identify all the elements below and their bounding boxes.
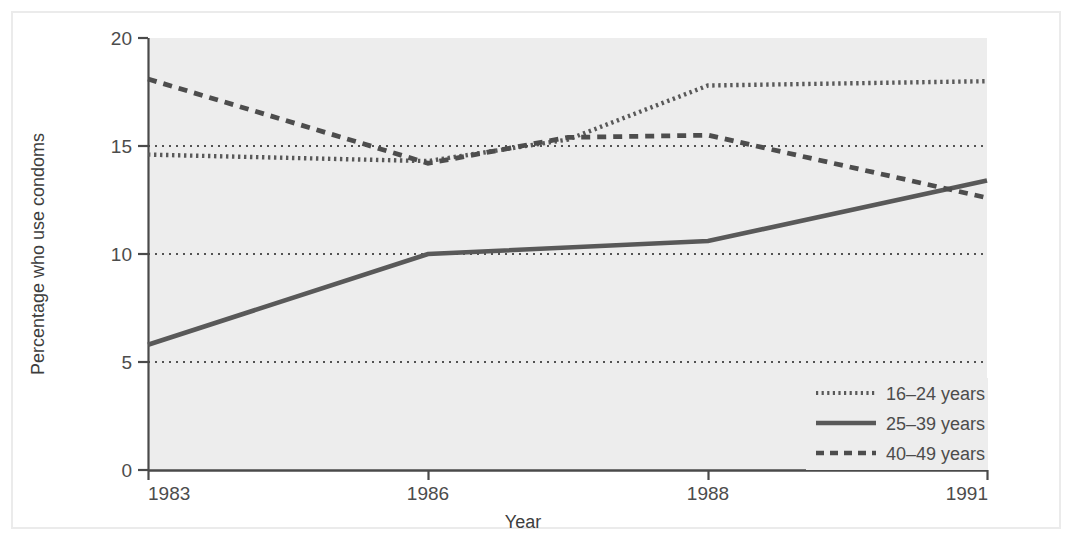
x-axis [148,470,988,480]
x-tick-label-1991: 1991 [946,483,988,504]
x-axis-title: Year [505,512,541,532]
x-tick-label-1983: 1983 [148,483,190,504]
legend-label-40-49: 40–49 years [886,444,985,464]
y-axis-title: Percentage who use condoms [28,133,48,375]
x-tick-label-1988: 1988 [687,483,729,504]
y-tick-label-15: 15 [111,136,132,157]
chart-figure: 20 15 10 5 0 1983 1986 1988 1991 Year Pe… [0,0,1074,543]
line-chart: 20 15 10 5 0 1983 1986 1988 1991 Year Pe… [0,0,1074,543]
y-tick-label-20: 20 [111,28,132,49]
y-tick-label-5: 5 [121,352,132,373]
legend-label-16-24: 16–24 years [886,384,985,404]
y-tick-label-10: 10 [111,244,132,265]
chart-legend: 16–24 years 25–39 years 40–49 years [806,378,988,470]
legend-label-25-39: 25–39 years [886,414,985,434]
y-axis [138,38,149,470]
y-tick-label-0: 0 [121,460,132,481]
x-tick-label-1986: 1986 [407,483,449,504]
